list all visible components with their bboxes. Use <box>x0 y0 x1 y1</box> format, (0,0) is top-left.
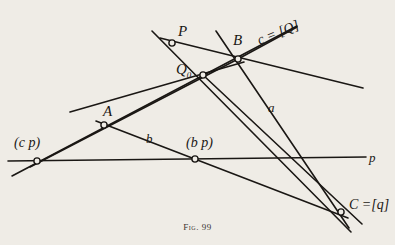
point-marker-B <box>235 56 241 62</box>
point-marker-P <box>169 40 175 46</box>
line-cp-Q0-B <box>30 58 240 167</box>
line-label-b: b <box>146 132 153 145</box>
point-label-C: C =[q] <box>349 198 389 212</box>
line-label-p: p <box>369 151 376 164</box>
line-b-Q0-bp-C <box>203 75 362 224</box>
geometry-figure <box>0 0 395 245</box>
line-label-a: a <box>268 101 275 114</box>
point-label-B: B <box>233 33 242 48</box>
point-marker-A <box>101 122 107 128</box>
figure-caption: Fig. 99 <box>0 222 395 232</box>
point-label-cp: (c p) <box>14 136 40 150</box>
point-label-Q0-subscript: 0 <box>187 70 192 80</box>
point-marker-C <box>338 209 344 215</box>
point-marker-cp <box>34 158 40 164</box>
point-marker-bp <box>192 156 198 162</box>
line-group <box>8 26 366 232</box>
point-label-A: A <box>103 104 112 119</box>
point-label-P: P <box>178 24 187 39</box>
point-label-Q0: Q0 <box>176 62 191 80</box>
line-p <box>8 157 366 161</box>
point-label-bp: (b p) <box>186 136 213 150</box>
point-marker-Q0 <box>200 72 206 78</box>
